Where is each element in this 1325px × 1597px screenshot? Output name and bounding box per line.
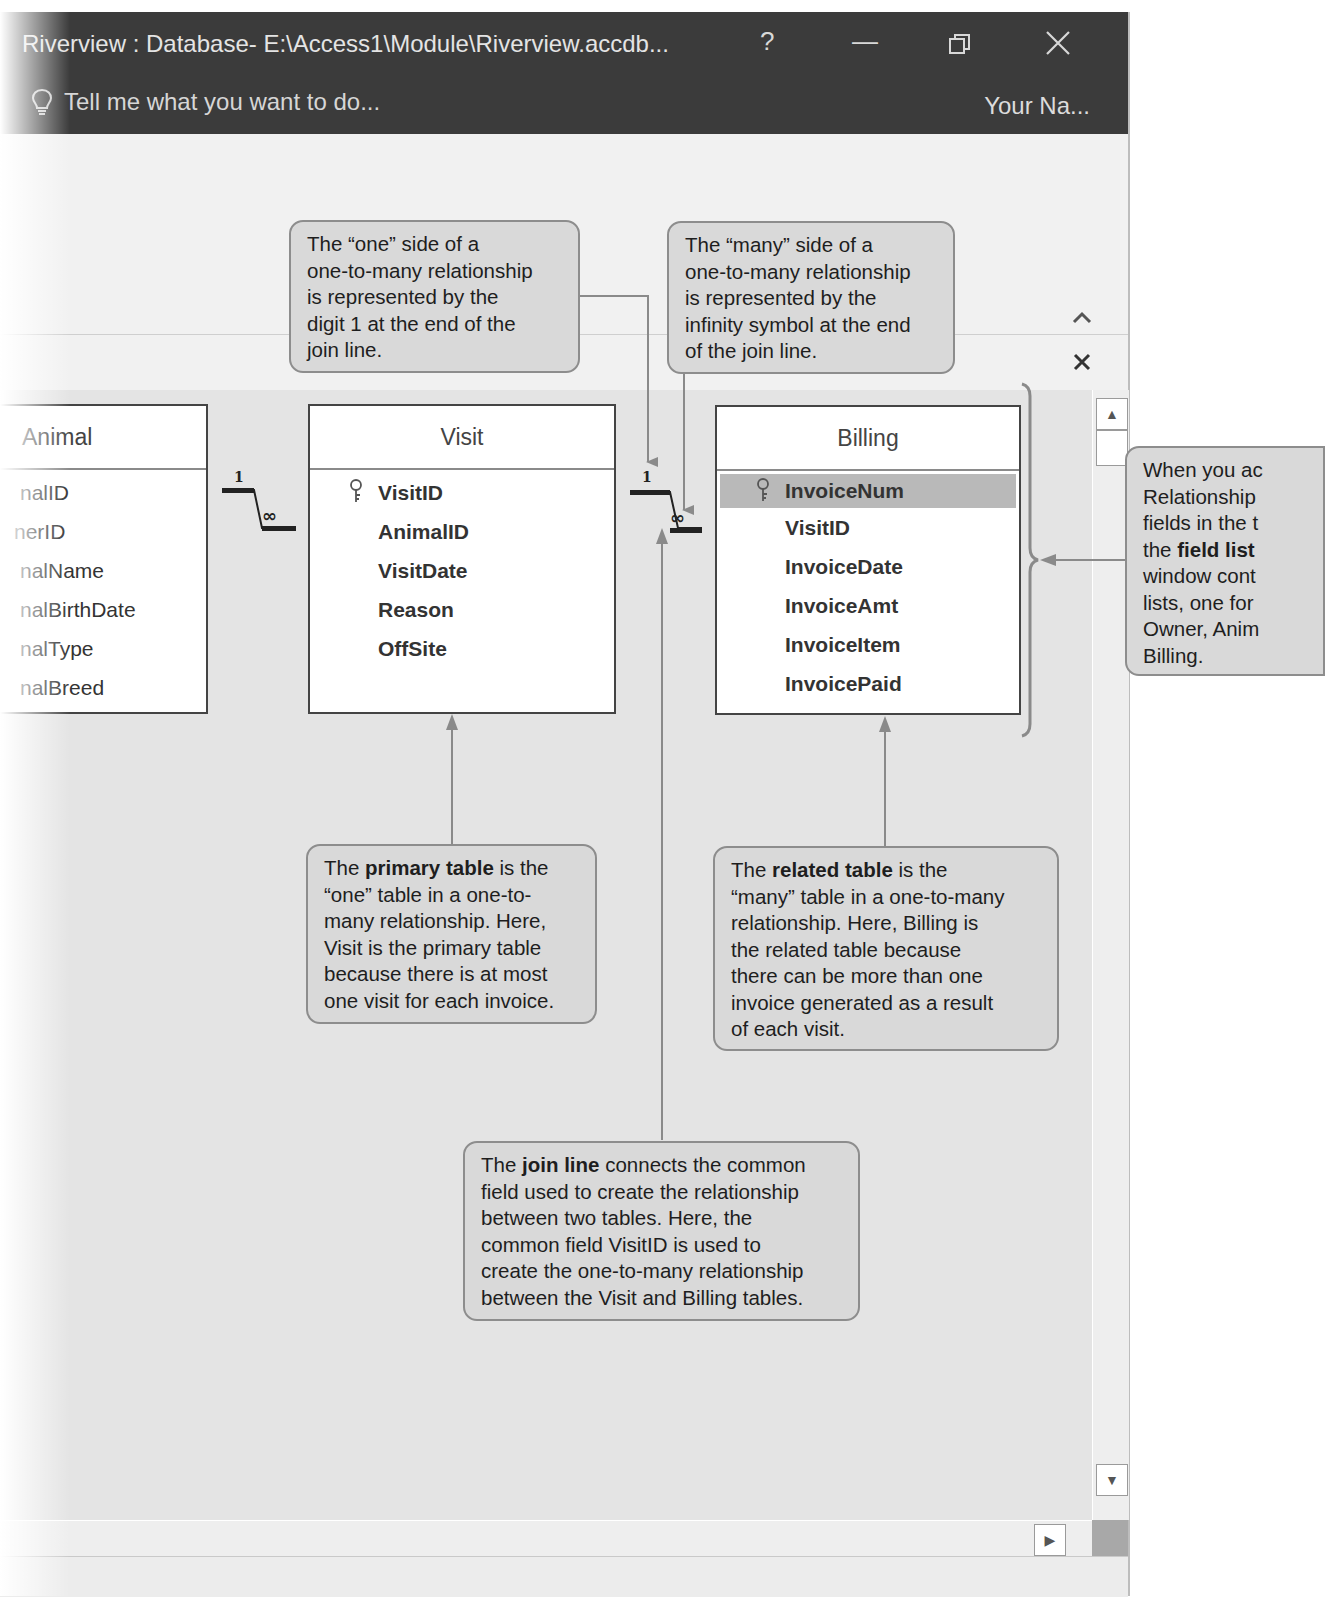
- field-item[interactable]: InvoicePaid: [717, 664, 1019, 703]
- close-icon: [1045, 30, 1071, 56]
- callout-field-list: When you ac Relationship fields in the t…: [1125, 446, 1325, 676]
- callout-text-line: Relationship: [1143, 484, 1307, 511]
- callout-text-line: join line.: [307, 337, 562, 364]
- close-button[interactable]: [1045, 26, 1071, 63]
- callout-text-line: infinity symbol at the end: [685, 312, 937, 339]
- field-item[interactable]: VisitDate: [310, 551, 614, 590]
- field-list-title[interactable]: Animal: [0, 406, 206, 470]
- callout-text-line: Owner, Anim: [1143, 616, 1307, 643]
- field-name: InvoiceNum: [785, 479, 904, 503]
- field-item[interactable]: InvoiceAmt: [717, 586, 1019, 625]
- field-item[interactable]: AnimalID: [310, 512, 614, 551]
- callout-text-line: one-to-many relationship: [685, 259, 937, 286]
- callout-bold-term: primary table: [365, 856, 494, 879]
- callout-text-line: The primary table is the: [324, 855, 579, 882]
- callout-text-line: create the one-to-many relationship: [481, 1258, 842, 1285]
- callout-text-line: “one” table in a one-to-: [324, 882, 579, 909]
- field-list-animal[interactable]: Animal nalID nerID nalName nalBirthDate …: [0, 404, 208, 714]
- callout-text-line: is represented by the: [685, 285, 937, 312]
- window-title: Riverview : Database- E:\Access1\Module\…: [22, 30, 669, 58]
- callout-text-line: one visit for each invoice.: [324, 988, 579, 1015]
- field-list-billing[interactable]: Billing InvoiceNum VisitID InvoiceDate I…: [715, 405, 1021, 715]
- callout-text-line: because there is at most: [324, 961, 579, 988]
- field-item[interactable]: nalBirthDate: [0, 590, 206, 629]
- callout-text: is the: [893, 858, 948, 881]
- collapse-ribbon-button[interactable]: [1072, 304, 1092, 330]
- title-bar: Riverview : Database- E:\Access1\Module\…: [0, 12, 1128, 134]
- close-relationships-button[interactable]: [1072, 348, 1092, 379]
- callout-text-line: many relationship. Here,: [324, 908, 579, 935]
- field-item[interactable]: InvoiceDate: [717, 547, 1019, 586]
- callout-text-line: between the Visit and Billing tables.: [481, 1285, 842, 1312]
- callout-text: The: [324, 856, 365, 879]
- close-icon: [1072, 352, 1092, 372]
- field-item[interactable]: VisitID: [717, 508, 1019, 547]
- callout-text: the: [1143, 538, 1177, 561]
- callout-text-line: common field VisitID is used to: [481, 1232, 842, 1259]
- field-name: VisitID: [378, 481, 443, 505]
- restore-button[interactable]: [948, 26, 972, 63]
- field-list-title[interactable]: Visit: [310, 406, 614, 470]
- callout-related-table: The related table is the “many” table in…: [713, 846, 1059, 1051]
- callout-text: connects the common: [599, 1153, 805, 1176]
- lightbulb-icon: [32, 88, 52, 116]
- callout-text-line: the related table because: [731, 937, 1041, 964]
- scroll-up-button[interactable]: ▲: [1096, 398, 1128, 430]
- tell-me-placeholder: Tell me what you want to do...: [64, 88, 380, 116]
- scroll-down-button[interactable]: ▼: [1096, 1464, 1128, 1496]
- vertical-scrollbar[interactable]: ▲ ▼: [1092, 390, 1129, 1520]
- callout-text-line: The “one” side of a: [307, 231, 562, 258]
- field-item[interactable]: nalType: [0, 629, 206, 668]
- callout-text-line: there can be more than one: [731, 963, 1041, 990]
- field-item[interactable]: InvoiceItem: [717, 625, 1019, 664]
- field-item[interactable]: nalID: [0, 473, 206, 512]
- callout-text: is the: [494, 856, 549, 879]
- field-list-visit[interactable]: Visit VisitID AnimalID VisitDate Reason …: [308, 404, 616, 714]
- chevron-up-icon: [1072, 310, 1092, 324]
- field-item-primary-key[interactable]: VisitID: [310, 473, 614, 512]
- callout-text-line: window cont: [1143, 563, 1307, 590]
- minimize-button[interactable]: —: [852, 26, 878, 57]
- callout-text-line: “many” table in a one-to-many: [731, 884, 1041, 911]
- callout-text-line: The related table is the: [731, 857, 1041, 884]
- user-account-name[interactable]: Your Na...: [984, 92, 1090, 120]
- restore-icon: [948, 32, 972, 56]
- callout-text-line: digit 1 at the end of the: [307, 311, 562, 338]
- callout-bold-term: field list: [1177, 538, 1254, 561]
- status-bar: [0, 1556, 1128, 1597]
- field-item[interactable]: nalBreed: [0, 668, 206, 707]
- field-list-title[interactable]: Billing: [717, 407, 1019, 471]
- field-item-primary-key-selected[interactable]: InvoiceNum: [720, 474, 1016, 508]
- callout-text-line: invoice generated as a result: [731, 990, 1041, 1017]
- callout-text-line: field used to create the relationship: [481, 1179, 842, 1206]
- field-item[interactable]: nalName: [0, 551, 206, 590]
- callout-text-line: fields in the t: [1143, 510, 1307, 537]
- callout-text-line: of each visit.: [731, 1016, 1041, 1043]
- help-button[interactable]: ?: [760, 26, 774, 57]
- callout-primary-table: The primary table is the “one” table in …: [306, 844, 597, 1024]
- callout-text: The: [731, 858, 772, 881]
- callout-text-line: one-to-many relationship: [307, 258, 562, 285]
- callout-text-line: When you ac: [1143, 457, 1307, 484]
- field-item[interactable]: Reason: [310, 590, 614, 629]
- callout-text-line: relationship. Here, Billing is: [731, 910, 1041, 937]
- tell-me-search[interactable]: Tell me what you want to do...: [32, 88, 380, 116]
- callout-text-line: lists, one for: [1143, 590, 1307, 617]
- field-item[interactable]: OffSite: [310, 629, 614, 668]
- callout-text-line: between two tables. Here, the: [481, 1205, 842, 1232]
- callout-text-line: The “many” side of a: [685, 232, 937, 259]
- callout-bold-term: join line: [522, 1153, 599, 1176]
- callout-text-line: the field list: [1143, 537, 1307, 564]
- callout-bold-term: related table: [772, 858, 893, 881]
- field-item[interactable]: nerID: [0, 512, 206, 551]
- callout-many-side: The “many” side of a one-to-many relatio…: [667, 221, 955, 374]
- callout-text-line: The join line connects the common: [481, 1152, 842, 1179]
- primary-key-icon: [755, 478, 771, 504]
- callout-join-line: The join line connects the common field …: [463, 1141, 860, 1321]
- scroll-right-button[interactable]: ▶: [1034, 1524, 1066, 1556]
- horizontal-scrollbar[interactable]: ▶: [0, 1520, 1092, 1557]
- callout-one-side: The “one” side of a one-to-many relation…: [289, 220, 580, 373]
- vertical-scroll-thumb[interactable]: [1096, 430, 1128, 466]
- callout-text-line: is represented by the: [307, 284, 562, 311]
- primary-key-icon: [348, 479, 364, 505]
